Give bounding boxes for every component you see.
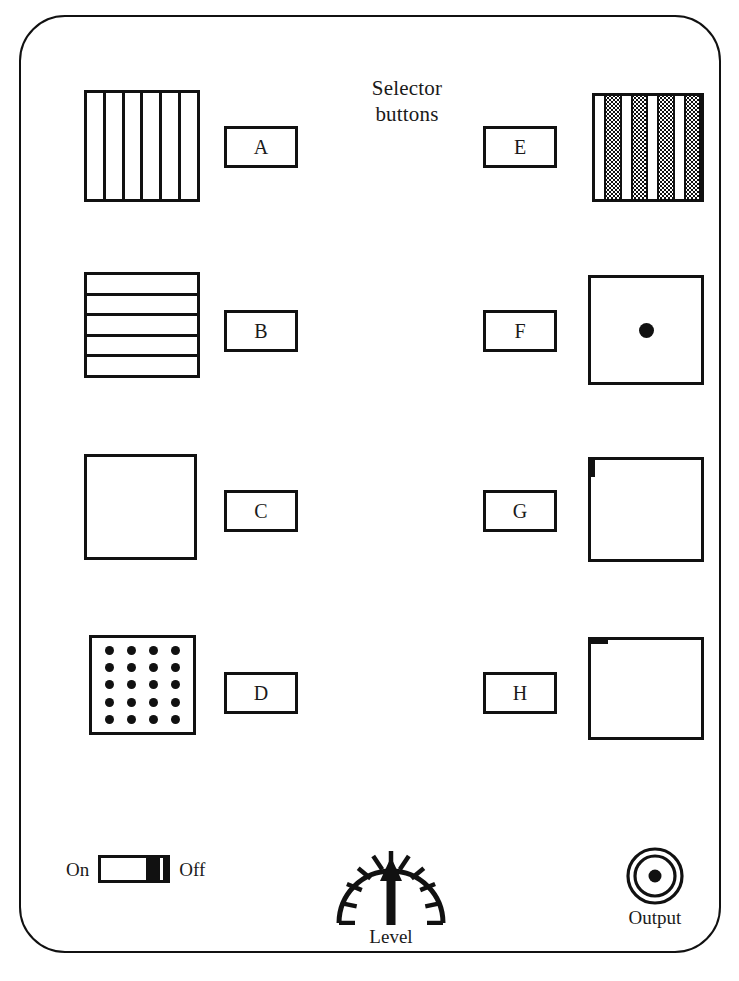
selector-button-c[interactable]: C <box>224 490 298 532</box>
selector-button-f-label: F <box>514 321 525 341</box>
selector-button-f[interactable]: F <box>483 310 557 352</box>
vertical-bars-pattern <box>87 93 197 199</box>
selector-button-e[interactable]: E <box>483 126 557 168</box>
swatch-f-centre-dot <box>588 275 704 385</box>
selector-button-g-label: G <box>513 501 527 521</box>
swatch-e-stippled-bands <box>592 93 704 202</box>
output-caption: Output <box>597 908 713 927</box>
swatch-b-horizontal-bars <box>84 272 200 378</box>
page-title-line-1: Selector <box>307 75 507 101</box>
swatch-d-dot-matrix <box>89 635 196 735</box>
output-jack-icon[interactable] <box>624 845 686 907</box>
swatch-a-vertical-bars <box>84 90 200 202</box>
selector-button-b[interactable]: B <box>224 310 298 352</box>
level-caption: Level <box>327 927 455 946</box>
swatch-h-vertical-band <box>588 637 704 740</box>
selector-button-g[interactable]: G <box>483 490 557 532</box>
stippled-bands-pattern <box>595 96 701 199</box>
horizontal-bars-pattern <box>87 275 197 375</box>
device-panel: Selector buttons A B C D <box>19 15 721 953</box>
selector-button-h-label: H <box>513 683 527 703</box>
selector-button-b-label: B <box>254 321 267 341</box>
selector-button-e-label: E <box>514 137 526 157</box>
selector-button-h[interactable]: H <box>483 672 557 714</box>
toggle-switch-edge <box>163 858 167 880</box>
toggle-switch-track[interactable] <box>98 855 170 883</box>
toggle-off-label: Off <box>179 860 205 879</box>
dot-matrix-pattern <box>92 638 193 732</box>
level-control[interactable]: Level <box>327 829 455 946</box>
centre-dot-pattern <box>591 278 701 382</box>
page-title-line-2: buttons <box>307 101 507 127</box>
power-toggle[interactable]: On Off <box>66 855 205 883</box>
output-control[interactable]: Output <box>597 845 713 927</box>
page-title: Selector buttons <box>307 75 507 127</box>
toggle-switch-knob[interactable] <box>146 858 160 880</box>
selector-button-a-label: A <box>254 137 268 157</box>
selector-button-d-label: D <box>254 683 268 703</box>
toggle-on-label: On <box>66 860 89 879</box>
selector-button-a[interactable]: A <box>224 126 298 168</box>
swatch-c-fine-grid <box>84 454 197 560</box>
selector-button-d[interactable]: D <box>224 672 298 714</box>
selector-button-c-label: C <box>254 501 267 521</box>
swatch-g-horizontal-band <box>588 457 704 562</box>
level-dial-icon[interactable] <box>327 829 455 925</box>
